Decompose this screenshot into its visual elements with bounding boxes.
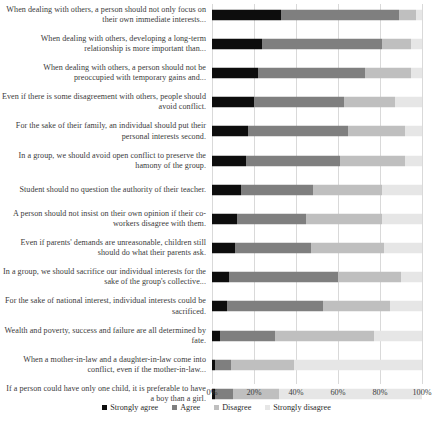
legend-item-disagree[interactable]: Disagree <box>214 403 251 412</box>
bar-segment-agree <box>235 243 311 254</box>
x-axis: 0%20%40%60%80%100% <box>212 388 422 402</box>
stacked-bar <box>212 301 422 312</box>
bar-segment-strongly-disagree <box>374 330 422 341</box>
stacked-bar <box>212 126 422 137</box>
chart-row: Even if there is some disagreement with … <box>0 88 433 117</box>
stacked-bar <box>212 213 422 224</box>
stacked-bar <box>212 97 422 108</box>
stacked-bar <box>212 38 422 49</box>
bar-segment-strongly-agree <box>212 301 227 312</box>
x-tick-label: 0% <box>207 388 218 397</box>
category-label: When a mother-in-law and a daughter-in-l… <box>2 355 206 375</box>
bar-segment-disagree <box>311 243 385 254</box>
bar-segment-disagree <box>399 9 416 20</box>
category-label: When dealing with others, developing a l… <box>2 34 206 54</box>
legend-item-agree[interactable]: Agree <box>172 403 200 412</box>
bar-segment-strongly-disagree <box>390 301 422 312</box>
bar-segment-strongly-disagree <box>411 67 422 78</box>
bar-segment-disagree <box>231 359 294 370</box>
bar-segment-agree <box>258 67 365 78</box>
category-label: Student should no question the authority… <box>2 185 206 195</box>
stacked-bar <box>212 243 422 254</box>
chart-row: Even if parents' demands are unreasonabl… <box>0 234 433 263</box>
bar-segment-strongly-agree <box>212 97 254 108</box>
bar-segment-strongly-disagree <box>294 359 422 370</box>
legend-label: Disagree <box>222 403 251 412</box>
chart-row: When dealing with others, a person shoul… <box>0 0 433 29</box>
bar-segment-disagree <box>348 126 405 137</box>
stacked-bar <box>212 184 422 195</box>
x-tick-label: 80% <box>372 388 387 397</box>
bar-segment-strongly-disagree <box>416 9 422 20</box>
bar-segment-strongly-disagree <box>382 213 422 224</box>
bar-segment-strongly-agree <box>212 126 248 137</box>
chart-row: A person should not insist on their own … <box>0 204 433 233</box>
bar-segment-agree <box>220 330 275 341</box>
bar-segment-strongly-agree <box>212 155 246 166</box>
chart-row: Wealth and poverty, success and failure … <box>0 321 433 350</box>
chart-row: For the sake of their family, an individ… <box>0 117 433 146</box>
bar-segment-strongly-agree <box>212 330 220 341</box>
x-tick-label: 60% <box>330 388 345 397</box>
stacked-bar <box>212 272 422 283</box>
x-tick-label: 20% <box>246 388 261 397</box>
bar-segment-strongly-disagree <box>395 97 422 108</box>
legend-label: Strongly disagree <box>273 403 331 412</box>
category-label: Even if there is some disagreement with … <box>2 92 206 112</box>
bar-segment-disagree <box>365 67 411 78</box>
legend-item-strongly-agree[interactable]: Strongly agree <box>102 403 158 412</box>
legend-swatch-icon <box>265 405 270 410</box>
chart-row: In a group, we should sacrifice our indi… <box>0 263 433 292</box>
category-label: Even if parents' demands are unreasonabl… <box>2 238 206 258</box>
x-tick-label: 40% <box>288 388 303 397</box>
bar-segment-strongly-disagree <box>382 184 422 195</box>
bar-segment-strongly-agree <box>212 9 281 20</box>
stacked-bar <box>212 330 422 341</box>
bar-segment-strongly-disagree <box>405 126 422 137</box>
bar-segment-agree <box>227 301 324 312</box>
category-label: If a person could have only one child, i… <box>2 384 206 404</box>
chart-row: When dealing with others, a person shoul… <box>0 58 433 87</box>
legend-swatch-icon <box>102 405 107 410</box>
bar-segment-disagree <box>382 38 411 49</box>
bar-segment-strongly-disagree <box>401 272 422 283</box>
stacked-bar <box>212 67 422 78</box>
stacked-bar <box>212 155 422 166</box>
bar-segment-strongly-disagree <box>411 38 422 49</box>
bar-segment-disagree <box>340 155 405 166</box>
bar-segment-strongly-agree <box>212 213 237 224</box>
bar-segment-strongly-agree <box>212 184 241 195</box>
bar-segment-agree <box>262 38 382 49</box>
bar-segment-agree <box>281 9 399 20</box>
bar-segment-strongly-agree <box>212 272 229 283</box>
chart-legend: Strongly agreeAgreeDisagreeStrongly disa… <box>0 403 433 412</box>
bar-segment-disagree <box>323 301 390 312</box>
stacked-bar <box>212 9 422 20</box>
bar-segment-agree <box>248 126 349 137</box>
category-label: In a group, we should sacrifice our indi… <box>2 267 206 287</box>
legend-label: Agree <box>180 403 200 412</box>
bar-segment-agree <box>229 272 338 283</box>
bar-segment-agree <box>241 184 312 195</box>
bar-segment-strongly-disagree <box>384 243 422 254</box>
bar-segment-strongly-agree <box>212 243 235 254</box>
chart-row: In a group, we should avoid open conflic… <box>0 146 433 175</box>
legend-swatch-icon <box>172 405 177 410</box>
bar-segment-agree <box>246 155 341 166</box>
chart-row: When dealing with others, developing a l… <box>0 29 433 58</box>
category-label: In a group, we should avoid open conflic… <box>2 150 206 170</box>
bar-segment-disagree <box>275 330 374 341</box>
stacked-bar <box>212 359 422 370</box>
legend-item-strongly-disagree[interactable]: Strongly disagree <box>265 403 331 412</box>
legend-label: Strongly agree <box>110 403 158 412</box>
category-label: When dealing with others, a person shoul… <box>2 63 206 83</box>
bar-segment-strongly-disagree <box>405 155 422 166</box>
bar-segment-strongly-agree <box>212 67 258 78</box>
bar-segment-disagree <box>306 213 382 224</box>
bar-segment-agree <box>254 97 344 108</box>
bar-segment-agree <box>215 359 231 370</box>
category-label: For the sake of national interest, indiv… <box>2 296 206 316</box>
stacked-bar-chart: When dealing with others, a person shoul… <box>0 0 433 424</box>
bar-segment-disagree <box>338 272 401 283</box>
chart-row: When a mother-in-law and a daughter-in-l… <box>0 350 433 379</box>
